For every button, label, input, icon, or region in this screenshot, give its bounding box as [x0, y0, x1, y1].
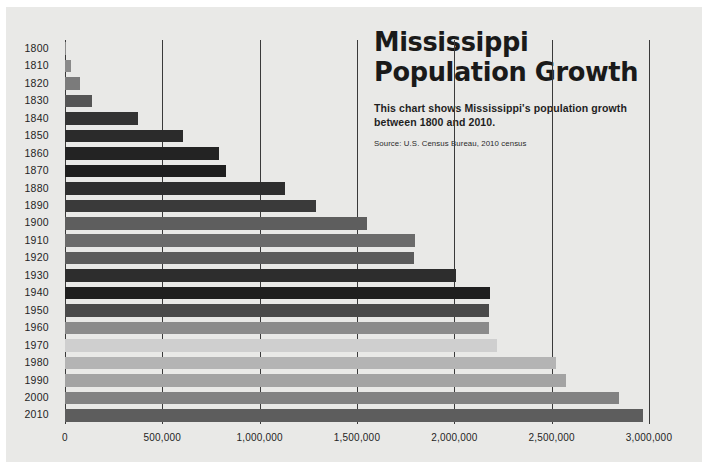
- bar-row: [65, 374, 566, 387]
- y-axis-label-1840: 1840: [24, 112, 49, 125]
- bar-row: [65, 182, 285, 195]
- y-axis-label-1960: 1960: [24, 321, 49, 334]
- x-axis-labels: 0500,0001,000,0001,500,0002,000,0002,500…: [65, 432, 649, 452]
- y-axis-label-2000: 2000: [24, 391, 49, 404]
- y-axis-label-1810: 1810: [24, 59, 49, 72]
- chart-poster: Mississippi Population Growth This chart…: [0, 0, 709, 468]
- bar-1820: [65, 77, 80, 90]
- y-axis-label-1990: 1990: [24, 374, 49, 387]
- bar-1970: [65, 339, 497, 352]
- y-axis-label-1950: 1950: [24, 304, 49, 317]
- page-margin-bottom: [0, 462, 709, 468]
- bar-row: [65, 322, 489, 335]
- bar-1800: [65, 42, 66, 55]
- bar-1960: [65, 322, 489, 335]
- page-margin-right: [702, 0, 709, 468]
- y-axis-label-1860: 1860: [24, 147, 49, 160]
- bar-1880: [65, 182, 285, 195]
- bar-1950: [65, 304, 489, 317]
- bar-1900: [65, 217, 367, 230]
- y-axis-label-1970: 1970: [24, 339, 49, 352]
- bar-row: [65, 339, 497, 352]
- y-axis-label-1850: 1850: [24, 129, 49, 142]
- y-axis-label-1930: 1930: [24, 269, 49, 282]
- plot-area: [65, 40, 649, 424]
- bar-2010: [65, 409, 643, 422]
- bar-row: [65, 392, 619, 405]
- bar-row: [65, 234, 415, 247]
- y-axis-label-1830: 1830: [24, 94, 49, 107]
- bar-1840: [65, 112, 138, 125]
- bar-1930: [65, 269, 456, 282]
- x-axis-label-2500000: 2,500,000: [529, 432, 575, 443]
- x-axis-label-1500000: 1,500,000: [334, 432, 380, 443]
- bar-1980: [65, 357, 556, 370]
- y-axis-label-1910: 1910: [24, 234, 49, 247]
- bar-row: [65, 269, 456, 282]
- y-axis-label-1820: 1820: [24, 77, 49, 90]
- bar-row: [65, 77, 80, 90]
- bar-row: [65, 409, 643, 422]
- y-axis-label-1920: 1920: [24, 251, 49, 264]
- bar-1940: [65, 287, 490, 300]
- gridline-3000000: [649, 40, 650, 424]
- bar-2000: [65, 392, 619, 405]
- bar-row: [65, 287, 490, 300]
- x-axis-label-2000000: 2,000,000: [431, 432, 477, 443]
- bar-1890: [65, 200, 316, 213]
- bar-row: [65, 200, 316, 213]
- bar-1920: [65, 252, 414, 265]
- bar-1860: [65, 147, 219, 160]
- bar-row: [65, 252, 414, 265]
- y-axis-label-1890: 1890: [24, 199, 49, 212]
- y-axis-label-1800: 1800: [24, 42, 49, 55]
- bar-row: [65, 147, 219, 160]
- bar-1990: [65, 374, 566, 387]
- bar-row: [65, 357, 556, 370]
- y-axis-label-1880: 1880: [24, 182, 49, 195]
- x-axis-label-1000000: 1,000,000: [237, 432, 283, 443]
- y-axis-label-1940: 1940: [24, 286, 49, 299]
- bar-1830: [65, 95, 92, 108]
- y-axis-label-1980: 1980: [24, 356, 49, 369]
- y-axis-label-2010: 2010: [24, 408, 49, 421]
- bar-1870: [65, 165, 226, 178]
- bar-row: [65, 60, 71, 73]
- x-axis-label-0: 0: [62, 432, 68, 443]
- bar-1810: [65, 60, 71, 73]
- bar-row: [65, 304, 489, 317]
- bar-row: [65, 112, 138, 125]
- bar-row: [65, 165, 226, 178]
- y-axis-labels: 1800181018201830184018501860187018801890…: [0, 40, 58, 424]
- page-margin-top: [0, 0, 709, 7]
- bar-row: [65, 42, 66, 55]
- bar-1910: [65, 234, 415, 247]
- y-axis-label-1870: 1870: [24, 164, 49, 177]
- bar-row: [65, 217, 367, 230]
- y-axis-label-1900: 1900: [24, 216, 49, 229]
- x-axis-label-3000000: 3,000,000: [626, 432, 672, 443]
- bar-1850: [65, 130, 183, 143]
- bar-row: [65, 95, 92, 108]
- bar-row: [65, 130, 183, 143]
- x-axis-label-500000: 500,000: [144, 432, 182, 443]
